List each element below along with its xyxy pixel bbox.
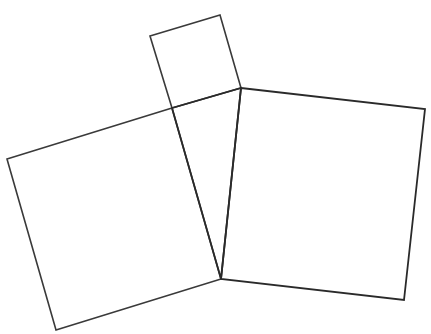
pythagoras-diagram [0,0,431,334]
small-square [150,15,241,108]
left-square [7,108,221,330]
right-triangle [172,88,241,279]
right-square [221,88,425,300]
